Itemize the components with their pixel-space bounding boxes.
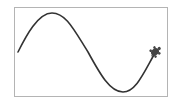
- turtle-icon: [147, 44, 164, 60]
- sine-wave-path: [18, 13, 155, 92]
- sine-drawing: [0, 0, 179, 104]
